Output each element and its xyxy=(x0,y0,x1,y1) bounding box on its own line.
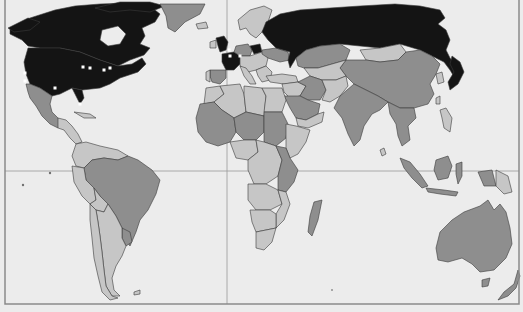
city-marker-new-york xyxy=(109,67,112,70)
city-marker-london xyxy=(228,49,231,52)
city-marker-seattle xyxy=(24,72,27,75)
island-marker xyxy=(49,172,51,174)
city-marker-chicago xyxy=(82,66,85,69)
island-marker xyxy=(22,184,24,186)
world-map xyxy=(0,0,523,312)
city-marker-san-francisco xyxy=(24,80,27,83)
city-marker-miami xyxy=(79,103,82,106)
city-marker-dallas xyxy=(54,87,57,90)
city-marker-paris xyxy=(229,55,232,58)
city-marker-zurich xyxy=(239,55,242,58)
island-marker xyxy=(331,289,333,291)
country-portugal xyxy=(206,70,210,82)
city-marker-pittsburgh xyxy=(103,69,106,72)
world-map-svg xyxy=(0,0,523,312)
country-libya xyxy=(244,86,266,116)
country-egypt xyxy=(262,88,286,112)
city-marker-detroit xyxy=(89,67,92,70)
